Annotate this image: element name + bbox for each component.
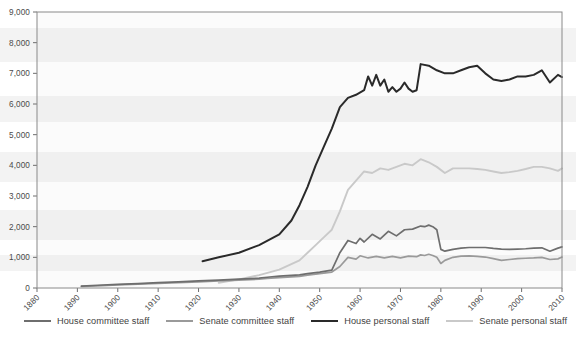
legend-label: Senate committee staff [199, 316, 294, 326]
x-axis-tick-label: 1930 [224, 293, 244, 313]
x-axis-tick-label: 1920 [183, 293, 203, 313]
y-axis-tick-label: 1,000 [9, 253, 30, 262]
line-chart: 01,0002,0003,0004,0005,0006,0007,0008,00… [0, 0, 576, 338]
legend-label: Senate personal staff [479, 316, 567, 326]
legend-label: House personal staff [344, 316, 429, 326]
y-axis-tick-label: 7,000 [9, 69, 30, 78]
y-axis-tick-label: 8,000 [9, 39, 30, 48]
y-axis-tick-label: 3,000 [9, 192, 30, 201]
x-axis-tick-label: 1960 [345, 293, 365, 313]
x-axis-tick-label: 1950 [305, 293, 325, 313]
x-axis-ticks [37, 288, 562, 292]
y-axis-tick-label: 9,000 [9, 8, 30, 17]
x-axis-tick-label: 2000 [506, 293, 526, 313]
y-axis-tick-label: 6,000 [9, 100, 30, 109]
legend-label: House committee staff [57, 316, 149, 326]
chart-legend: House committee staffSenate committee st… [0, 316, 576, 338]
legend-item[interactable]: House personal staff [311, 316, 429, 326]
x-axis-tick-label: 1900 [103, 293, 123, 313]
x-axis-tick-label: 1940 [264, 293, 284, 313]
x-axis-tick-label: 2010 [547, 293, 567, 313]
x-axis-tick-label: 1970 [385, 293, 405, 313]
y-axis-tick-label: 4,000 [9, 161, 30, 170]
legend-item[interactable]: House committee staff [24, 316, 149, 326]
y-axis-ticks [33, 12, 37, 288]
legend-swatch-line-icon [166, 320, 193, 322]
x-axis-tick-label: 1910 [143, 293, 163, 313]
legend-item[interactable]: Senate committee staff [166, 316, 294, 326]
x-axis-tick-label: 1990 [466, 293, 486, 313]
y-axis-tick-labels: 01,0002,0003,0004,0005,0006,0007,0008,00… [9, 8, 30, 293]
legend-swatch-line-icon [446, 320, 473, 322]
chart-container: 01,0002,0003,0004,0005,0006,0007,0008,00… [0, 0, 576, 338]
y-axis-tick-label: 0 [25, 284, 30, 293]
legend-item[interactable]: Senate personal staff [446, 316, 567, 326]
y-axis-tick-label: 5,000 [9, 131, 30, 140]
x-axis-tick-label: 1980 [426, 293, 446, 313]
x-axis-tick-labels: 1880189019001910192019301940195019601970… [22, 293, 567, 313]
x-axis-tick-label: 1880 [22, 293, 42, 313]
legend-swatch-line-icon [311, 320, 338, 322]
x-axis-tick-label: 1890 [62, 293, 82, 313]
y-axis-tick-label: 2,000 [9, 223, 30, 232]
legend-swatch-line-icon [24, 320, 51, 322]
